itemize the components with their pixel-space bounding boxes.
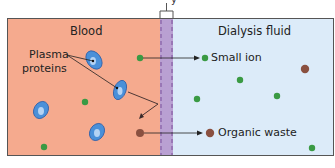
plasma-proteins-label-line1: Plasma: [29, 48, 69, 61]
blocked-arrow: [128, 92, 158, 117]
small-ion-arrowhead-icon: [194, 56, 200, 61]
plasma-proteins-label-line2: proteins: [22, 62, 67, 75]
organic-waste-arrowhead-icon: [197, 131, 203, 136]
small-ion-label: Small ion: [211, 51, 262, 64]
dialysis-fluid-label: Dialysis fluid: [218, 24, 291, 38]
organic-waste-label: Organic waste: [218, 126, 297, 139]
blood-label: Blood: [70, 24, 102, 38]
membrane-bracket: [160, 3, 173, 18]
blocked-arrowhead-icon: [139, 113, 144, 119]
